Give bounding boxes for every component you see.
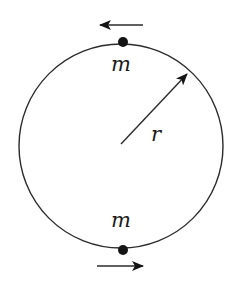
mass-top-dot — [118, 37, 128, 47]
diagram-graphic — [0, 0, 248, 292]
mass-bottom-label: m — [111, 210, 131, 231]
mass-bottom-dot — [118, 245, 128, 255]
radius-label: r — [151, 124, 161, 145]
orbit-diagram: m m r — [0, 0, 248, 292]
mass-top-label: m — [111, 54, 131, 75]
